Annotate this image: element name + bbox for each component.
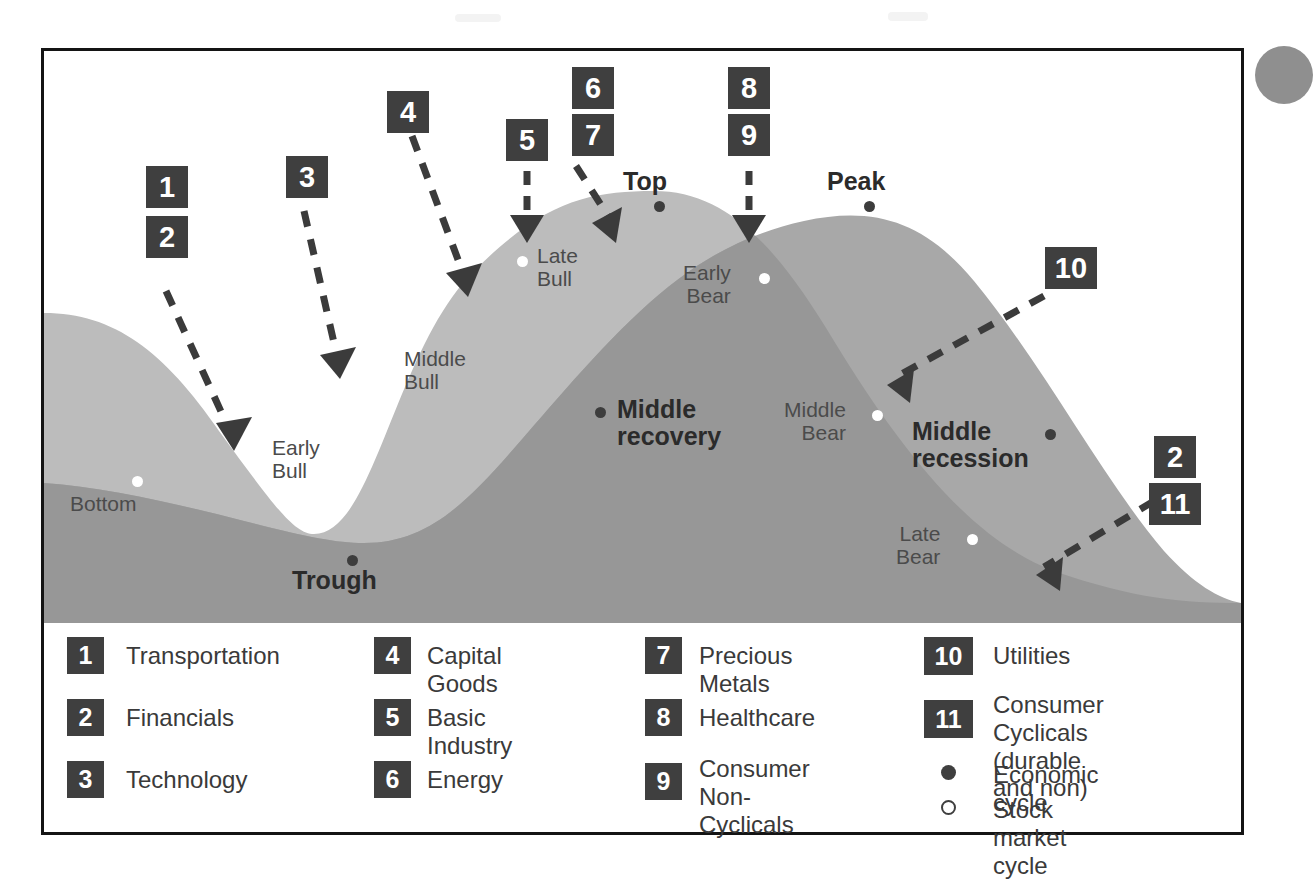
label-top: Top [623,168,667,195]
legend-item[interactable]: 3 Technology [67,761,247,798]
label-early-bull: Early Bull [272,437,320,482]
label-middle-bull: Middle Bull [404,348,466,393]
legend-marker-stock: Stock market cycle [924,800,1066,879]
marker-top [654,201,665,212]
legend-badge-11: 11 [924,700,973,738]
callout-badge-6[interactable]: 6 [572,67,614,109]
marker-middle-recovery [595,407,606,418]
legend-item[interactable]: 6 Energy [374,761,503,798]
legend-badge-1: 1 [67,637,104,674]
marker-early-bull [253,448,264,459]
legend-badge-9: 9 [645,763,682,800]
marker-bottom [132,476,143,487]
marker-late-bear [967,534,978,545]
cycle-waves [44,51,1241,623]
callout-badge-8[interactable]: 8 [728,67,770,109]
callout-badge-4[interactable]: 4 [387,91,429,133]
scan-artifact-right [888,12,928,21]
legend-label-9: Consumer Non-Cyclicals [699,755,810,838]
legend-badge-5: 5 [374,699,411,736]
callout-badge-3[interactable]: 3 [286,156,328,198]
sector-legend: 1 Transportation 2 Financials 3 Technolo… [44,629,1241,832]
legend-item[interactable]: 7 Precious Metals [645,637,792,698]
label-late-bear: Late Bear [896,523,940,568]
legend-label-7: Precious Metals [699,642,792,698]
label-middle-recession: Middle recession [912,418,1029,472]
marker-middle-bear [872,410,883,421]
label-middle-recovery: Middle recovery [617,396,721,450]
legend-label-4: Capital Goods [427,642,502,698]
legend-label-5: Basic Industry [427,704,512,760]
legend-label-10: Utilities [993,642,1070,670]
callout-badge-7[interactable]: 7 [572,114,614,156]
label-peak: Peak [827,168,885,195]
legend-label-3: Technology [126,766,247,794]
legend-item[interactable]: 8 Healthcare [645,699,815,736]
marker-middle-bull [385,359,396,370]
label-early-bear: Early Bear [683,262,731,307]
page-corner-blob [1255,46,1313,104]
scan-artifact-left [455,14,501,22]
legend-badge-10: 10 [924,637,973,675]
label-late-bull: Late Bull [537,245,578,290]
callout-badge-11[interactable]: 11 [1149,483,1201,525]
diagram-frame: Bottom Early Bull Middle Bull Late Bull … [41,48,1244,835]
hollow-circle-icon [924,800,973,815]
legend-badge-6: 6 [374,761,411,798]
legend-item[interactable]: 2 Financials [67,699,234,736]
marker-early-bear [759,273,770,284]
legend-item[interactable]: 10 Utilities [924,637,1070,675]
marker-peak [864,201,875,212]
cycle-chart: Bottom Early Bull Middle Bull Late Bull … [44,51,1241,623]
callout-badge-2b[interactable]: 2 [1154,436,1196,478]
legend-item[interactable]: 4 Capital Goods [374,637,502,698]
legend-label-6: Energy [427,766,503,794]
callout-badge-9[interactable]: 9 [728,114,770,156]
legend-item[interactable]: 5 Basic Industry [374,699,512,760]
callout-badge-5[interactable]: 5 [506,119,548,161]
legend-label-8: Healthcare [699,704,815,732]
label-trough: Trough [292,567,377,594]
label-bottom: Bottom [70,493,137,516]
legend-badge-7: 7 [645,637,682,674]
legend-item[interactable]: 9 Consumer Non-Cyclicals [645,755,810,838]
legend-label-2: Financials [126,704,234,732]
legend-label-1: Transportation [126,642,280,670]
callout-badge-10[interactable]: 10 [1045,247,1097,289]
label-middle-bear: Middle Bear [784,399,846,444]
marker-middle-recession [1045,429,1056,440]
legend-badge-2: 2 [67,699,104,736]
marker-late-bull [517,256,528,267]
marker-trough [347,555,358,566]
legend-marker-label-stock: Stock market cycle [993,796,1066,879]
callout-badge-1[interactable]: 1 [146,166,188,208]
legend-badge-8: 8 [645,699,682,736]
callout-badge-2[interactable]: 2 [146,216,188,258]
legend-item[interactable]: 1 Transportation [67,637,280,674]
legend-badge-3: 3 [67,761,104,798]
legend-badge-4: 4 [374,637,411,674]
filled-dot-icon [924,765,973,780]
